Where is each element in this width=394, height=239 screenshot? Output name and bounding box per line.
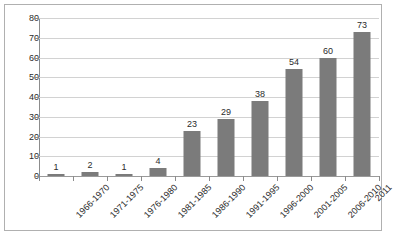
x-axis-tick-mark	[311, 176, 312, 181]
bar[interactable]	[184, 131, 201, 176]
bar[interactable]	[320, 58, 337, 177]
x-axis-tick-mark	[175, 176, 176, 181]
x-axis-category-label: 1981-1985	[177, 183, 214, 220]
bar-slot: 1	[39, 18, 73, 176]
x-axis-tick-mark	[209, 176, 210, 181]
x-axis-tick-mark	[73, 176, 74, 181]
x-axis-category-label: 2001-2005	[313, 183, 350, 220]
bar-value-label: 29	[221, 108, 231, 117]
x-axis-tick-mark	[243, 176, 244, 181]
x-axis-tick-mark	[345, 176, 346, 181]
bar[interactable]	[150, 168, 167, 176]
bar-value-label: 73	[357, 21, 367, 30]
bar-value-label: 4	[155, 157, 160, 166]
bar[interactable]	[218, 119, 235, 176]
bar-value-label: 23	[187, 120, 197, 129]
x-axis-tick-mark	[141, 176, 142, 181]
bar[interactable]	[286, 69, 303, 176]
bar-slot: 60	[311, 18, 345, 176]
x-axis-tick-mark	[277, 176, 278, 181]
bar-value-label: 54	[289, 58, 299, 67]
bar-value-label: 38	[255, 90, 265, 99]
x-axis-tick-mark	[379, 176, 380, 181]
x-axis-category-label: 1991-1995	[245, 183, 282, 220]
x-axis-tick-mark	[39, 176, 40, 181]
bar[interactable]	[82, 172, 99, 176]
bar-value-label: 60	[323, 47, 333, 56]
x-axis-category-label: 1971-1975	[109, 183, 146, 220]
bar-slot: 23	[175, 18, 209, 176]
bar[interactable]	[354, 32, 371, 176]
x-axis-category-label: 1996-2000	[279, 183, 316, 220]
x-axis-category-label: 1986-1990	[211, 183, 248, 220]
y-axis-labels: 80706050403020100	[5, 5, 39, 232]
bar-value-label: 1	[121, 163, 126, 172]
bar-slot: 29	[209, 18, 243, 176]
bar-slot: 2	[73, 18, 107, 176]
bar-slot: 4	[141, 18, 175, 176]
chart-frame: 80706050403020100 1214232938546073 1966-…	[4, 4, 382, 231]
bar[interactable]	[48, 174, 65, 176]
bar-slot: 1	[107, 18, 141, 176]
bar-value-label: 1	[53, 163, 58, 172]
bar[interactable]	[252, 101, 269, 176]
bar-slot: 73	[345, 18, 379, 176]
x-axis-category-label: 1976-1980	[143, 183, 180, 220]
bar[interactable]	[116, 174, 133, 176]
bar-slot: 38	[243, 18, 277, 176]
x-axis-category-label: 1966-1970	[75, 183, 112, 220]
plot-area: 1214232938546073	[39, 18, 379, 176]
bar-slot: 54	[277, 18, 311, 176]
x-axis-tick-mark	[107, 176, 108, 181]
bar-value-label: 2	[87, 161, 92, 170]
